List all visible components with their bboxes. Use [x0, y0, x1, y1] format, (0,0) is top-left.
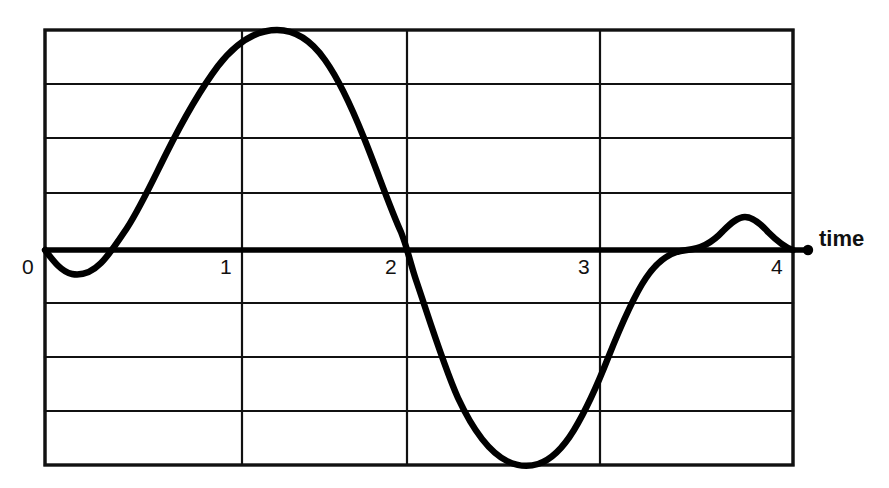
x-tick-label-4: 4: [771, 256, 783, 277]
plot-canvas: [0, 0, 889, 488]
axis-arrow-cap-icon: [803, 245, 813, 255]
x-tick-label-3: 3: [578, 256, 590, 277]
x-tick-label-2: 2: [385, 256, 397, 277]
x-tick-label-1: 1: [220, 256, 232, 277]
x-axis-label: time: [819, 228, 864, 250]
x-tick-label-0: 0: [22, 256, 34, 277]
chart-figure: 0 1 2 3 4 time: [0, 0, 889, 488]
